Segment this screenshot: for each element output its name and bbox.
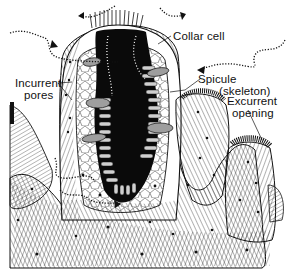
main-tube (60, 10, 181, 222)
label-excurrent: Excurrent (227, 95, 277, 107)
label-incurrent: Incurrent (15, 77, 61, 89)
left-tube (10, 102, 52, 209)
label-excurrent-opening: opening (232, 107, 274, 119)
label-incurrent-pores: pores (24, 89, 53, 101)
label-collar-cell: Collar cell (173, 30, 225, 42)
label-spicule: Spicule (198, 73, 236, 85)
right-short-tube (225, 138, 283, 242)
sponge-illustration (0, 0, 290, 276)
